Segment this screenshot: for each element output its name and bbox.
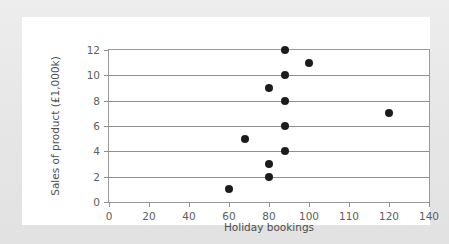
x-axis-tick-label: 0 — [106, 211, 113, 222]
figure-card: Sales of product (£1,000k) 024681012 020… — [22, 17, 430, 225]
x-axis-tick — [429, 202, 430, 207]
scatter-point — [265, 173, 273, 181]
gridline — [109, 75, 429, 76]
x-axis-tick — [349, 202, 350, 207]
y-axis-tick-label: 2 — [93, 171, 100, 182]
x-axis-tick — [309, 202, 310, 207]
y-axis-tick — [104, 177, 109, 178]
scatter-point — [305, 59, 313, 67]
scatter-point — [281, 71, 289, 79]
x-axis-tick — [389, 202, 390, 207]
x-axis-tick-label: 40 — [182, 211, 195, 222]
scatter-point — [281, 97, 289, 105]
y-axis-tick — [104, 151, 109, 152]
scatter-point — [281, 46, 289, 54]
plot-area: 024681012 020406080100110120140 — [108, 49, 430, 203]
gridline — [109, 126, 429, 127]
x-axis-tick — [109, 202, 110, 207]
y-axis-tick — [104, 101, 109, 102]
scatter-point — [281, 122, 289, 130]
y-axis-tick-label: 10 — [87, 70, 100, 81]
x-axis-tick — [149, 202, 150, 207]
x-axis-tick — [229, 202, 230, 207]
scatter-point — [241, 135, 249, 143]
x-axis-tick — [189, 202, 190, 207]
scatter-point — [225, 185, 233, 193]
gridline — [109, 101, 429, 102]
y-axis-tick-label: 0 — [93, 197, 100, 208]
y-axis-tick — [104, 75, 109, 76]
y-axis-tick-label: 4 — [93, 146, 100, 157]
x-axis-tick-label: 80 — [262, 211, 275, 222]
y-axis-tick — [104, 50, 109, 51]
x-axis-title: Holiday bookings — [108, 222, 430, 233]
x-axis-tick-label: 60 — [222, 211, 235, 222]
scatter-point — [265, 160, 273, 168]
y-axis-tick-label: 6 — [93, 121, 100, 132]
gridline — [109, 151, 429, 152]
scatter-point — [265, 84, 273, 92]
x-axis-tick — [269, 202, 270, 207]
x-axis-tick-label: 100 — [299, 211, 319, 222]
x-axis-tick-label: 110 — [339, 211, 359, 222]
y-axis-tick-label: 8 — [93, 95, 100, 106]
scatter-point — [281, 147, 289, 155]
y-axis-tick — [104, 126, 109, 127]
x-axis-tick-label: 140 — [419, 211, 439, 222]
scatter-point — [385, 109, 393, 117]
y-axis-tick-label: 12 — [87, 45, 100, 56]
y-axis-title: Sales of product (£1,000k) — [50, 56, 61, 195]
x-axis-tick-label: 120 — [379, 211, 399, 222]
x-axis-tick-label: 20 — [142, 211, 155, 222]
